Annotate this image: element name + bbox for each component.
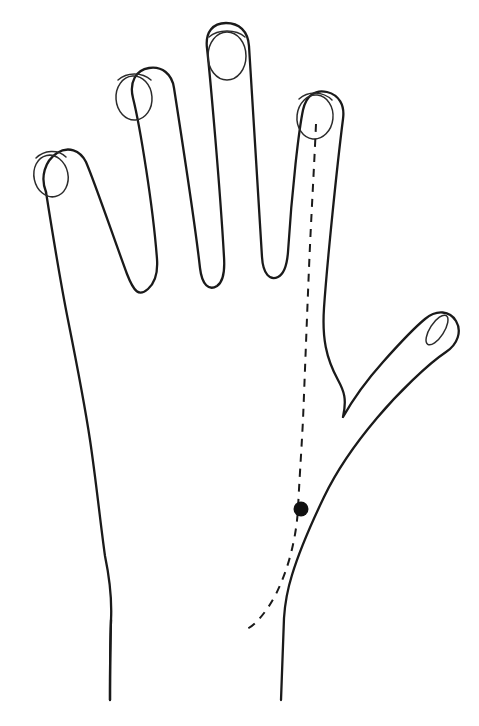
figure-background [0,0,479,726]
hand-diagram-svg [0,0,479,726]
wrist-left-line [110,620,111,700]
acupoint-marker [294,502,309,517]
hand-diagram-figure [0,0,479,726]
